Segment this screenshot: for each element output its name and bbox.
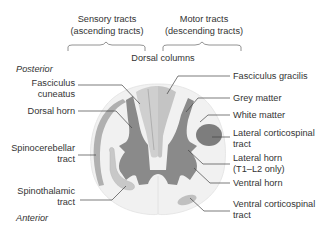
lateral-corticospinal-label: Lateral corticospinal [233,128,315,138]
sensory-tracts-label: Sensory tracts [78,14,137,24]
anterior-label: Anterior [15,213,49,223]
spinothalamic-label-2: tract [57,197,75,207]
lateral-corticospinal-tract [196,124,222,146]
grey-matter-label: Grey matter [233,93,282,103]
spinal-cord-diagram: Sensory tracts (ascending tracts) Motor … [0,0,327,238]
ventral-horn-label: Ventral horn [233,178,283,188]
spinocerebellar-label: Spinocerebellar [11,143,75,153]
fasciculus-cuneatus-label-2: cuneatus [38,89,76,99]
fasciculus-gracilis-label: Fasciculus gracilis [233,71,308,81]
ventral-corticospinal-label: Ventral corticospinal [233,199,315,209]
spinothalamic-label: Spinothalamic [17,186,75,196]
sensory-tracts-sublabel: (ascending tracts) [70,26,143,36]
motor-brace [163,42,241,51]
sensory-brace [68,42,145,51]
lateral-horn-label: Lateral horn [233,153,282,163]
spinocerebellar-label-2: tract [57,154,75,164]
dorsal-columns-label: Dorsal columns [131,53,195,63]
posterior-label: Posterior [16,64,54,74]
fasciculus-cuneatus-label: Fasciculus [32,78,76,88]
motor-tracts-sublabel: (descending tracts) [165,26,243,36]
ventral-corticospinal-label-2: tract [233,210,251,220]
lateral-corticospinal-label-2: tract [233,139,251,149]
lateral-horn-label-2: (T1–L2 only) [233,164,285,174]
white-matter-label: White matter [233,110,285,120]
motor-tracts-label: Motor tracts [180,14,229,24]
dorsal-horn-label: Dorsal horn [28,106,76,116]
